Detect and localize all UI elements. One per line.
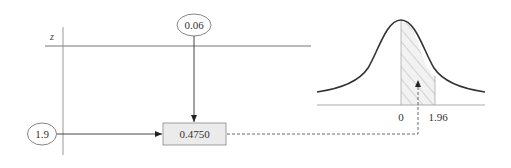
row-value-label: 1.9 [35, 128, 49, 140]
normal-curve-graph: 0 1.96 [317, 20, 485, 123]
table-entry-label: 0.4750 [179, 128, 210, 140]
z-axis-label: z [49, 31, 54, 42]
column-value-node: 0.06 [177, 14, 211, 36]
column-value-label: 0.06 [184, 19, 204, 31]
z-table-lookup-diagram: z 0.06 1.9 0.4750 0 1.96 [0, 0, 511, 168]
z-value-label: 1.96 [428, 111, 448, 123]
row-value-node: 1.9 [28, 123, 57, 145]
mean-label: 0 [398, 111, 404, 123]
dashed-connector-arrow [227, 80, 418, 134]
table-entry-box: 0.4750 [163, 123, 226, 145]
